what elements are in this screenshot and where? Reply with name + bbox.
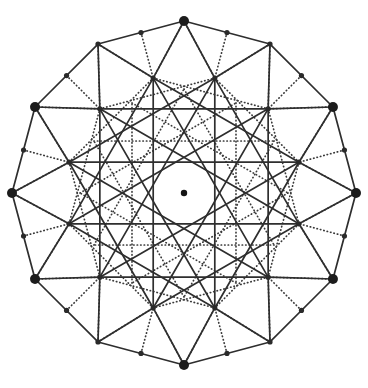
solid-rim-strut [98, 277, 100, 342]
minor-node [138, 351, 143, 356]
minor-node [64, 73, 69, 78]
solid-rim-strut [153, 21, 184, 78]
solid-rim-strut [153, 308, 184, 365]
hub-node [266, 275, 271, 280]
hub-node [151, 75, 156, 80]
hub-node [296, 221, 301, 226]
outer-vertex-major [179, 360, 189, 370]
solid-hub-chord [215, 162, 299, 308]
solid-rim-strut [184, 21, 215, 78]
hub-node [212, 75, 217, 80]
solid-rim-strut [299, 162, 356, 193]
outer-vertex-major [328, 274, 338, 284]
center-node-layer [181, 190, 187, 196]
solid-hub-chord [153, 78, 299, 162]
dotted-radial-connector [67, 76, 100, 109]
solid-rim-strut [98, 44, 100, 109]
minor-node [299, 73, 304, 78]
solid-hub-chord [69, 78, 215, 162]
hub-node [266, 106, 271, 111]
outer-vertex-minor [95, 41, 100, 46]
outer-vertex-minor [267, 339, 272, 344]
minor-node [342, 233, 347, 238]
outer-vertex-major [30, 102, 40, 112]
outer-vertex-major [351, 188, 361, 198]
solid-long-chord [100, 109, 215, 308]
solid-long-chord [69, 109, 268, 224]
solid-rim-strut [268, 107, 333, 109]
solid-long-chord [100, 162, 299, 277]
solid-hub-chord [153, 224, 299, 308]
minor-node [64, 308, 69, 313]
minor-node [224, 30, 229, 35]
hub-node [97, 106, 102, 111]
center-node [181, 190, 187, 196]
minor-node [138, 30, 143, 35]
hub-node [212, 305, 217, 310]
outer-vertex-major [328, 102, 338, 112]
hub-node [66, 160, 71, 165]
solid-long-chord [153, 109, 268, 308]
solid-long-chord [153, 78, 268, 277]
hub-node [151, 305, 156, 310]
dotted-radial-connector [67, 277, 100, 310]
geometric-figure-canvas [0, 0, 368, 388]
outer-vertex-major [30, 274, 40, 284]
hub-node [296, 160, 301, 165]
solid-rim-strut [35, 107, 100, 109]
outer-vertex-minor [267, 41, 272, 46]
solid-hub-chord [215, 78, 299, 224]
outer-vertex-major [179, 16, 189, 26]
dotted-radial-connector [268, 277, 301, 310]
solid-rim-strut [268, 44, 270, 109]
solid-rim-strut [35, 277, 100, 279]
hub-node [97, 275, 102, 280]
solid-rim-strut [12, 193, 69, 224]
solid-long-chord [69, 162, 268, 277]
hub-node [66, 221, 71, 226]
minor-node [224, 351, 229, 356]
solid-rim-strut [268, 277, 270, 342]
minor-node [299, 308, 304, 313]
minor-node [21, 147, 26, 152]
solid-rim-strut [268, 277, 333, 279]
minor-node [342, 147, 347, 152]
minor-node [21, 233, 26, 238]
solid-long-chord [100, 109, 299, 224]
solid-hub-chord [69, 162, 153, 308]
solid-hub-chord [69, 224, 215, 308]
solid-rim-strut [299, 193, 356, 224]
dotted-radial-connector [268, 76, 301, 109]
solid-hub-chord [69, 78, 153, 224]
solid-rim-strut [12, 162, 69, 193]
dodecagon-diagram-svg [0, 0, 368, 388]
solid-long-chord [100, 78, 215, 277]
outer-vertex-minor [95, 339, 100, 344]
solid-rim-strut [184, 308, 215, 365]
outer-vertex-major [7, 188, 17, 198]
